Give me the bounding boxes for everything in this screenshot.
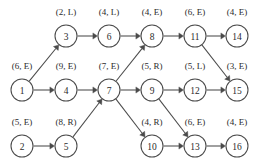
node-id-text: 1 — [20, 86, 25, 96]
arrowhead-icon — [93, 33, 98, 39]
edge-13-to-16 — [207, 143, 226, 149]
node-id-text: 10 — [147, 142, 157, 152]
graph-node-11[interactable]: 11(6, E) — [184, 7, 206, 47]
arrowhead-icon — [179, 33, 184, 39]
graph-node-8[interactable]: 8(4, E) — [141, 7, 163, 47]
graph-canvas: 1(6, E)2(5, E)3(2, L)4(9, E)5(8, R)6(4, … — [0, 0, 256, 166]
node-annotation-label: (9, E) — [56, 61, 77, 71]
edge-2-to-5 — [34, 143, 55, 149]
edge-1-to-4 — [34, 87, 55, 93]
node-id-text: 12 — [190, 86, 200, 96]
graph-node-13[interactable]: 13(6, E) — [184, 117, 206, 157]
edge-9-to-12 — [164, 87, 184, 93]
graph-node-16[interactable]: 16(4, E) — [226, 117, 248, 157]
node-annotation-label: (8, R) — [56, 117, 77, 127]
arrowhead-icon — [93, 87, 98, 93]
edge-11-to-14 — [207, 33, 226, 39]
arrowhead-icon — [97, 99, 102, 105]
edge-11-to-15 — [202, 45, 230, 81]
arrowhead-icon — [50, 87, 55, 93]
graph-node-9[interactable]: 9(5, R) — [141, 61, 163, 101]
node-layer: 1(6, E)2(5, E)3(2, L)4(9, E)5(8, R)6(4, … — [11, 7, 248, 157]
graph-node-6[interactable]: 6(4, L) — [98, 7, 120, 47]
node-annotation-label: (3, E) — [227, 61, 248, 71]
arrowhead-icon — [136, 87, 141, 93]
node-annotation-label: (6, E) — [185, 117, 206, 127]
edge-7-to-9 — [121, 87, 141, 93]
node-id-text: 13 — [190, 142, 200, 152]
node-id-text: 2 — [20, 142, 25, 152]
edge-4-to-7 — [78, 87, 98, 93]
arrowhead-icon — [53, 45, 58, 51]
node-id-text: 3 — [64, 32, 69, 42]
graph-figure: 1(6, E)2(5, E)3(2, L)4(9, E)5(8, R)6(4, … — [0, 0, 256, 166]
arrowhead-icon — [221, 143, 226, 149]
edge-6-to-8 — [121, 33, 141, 39]
arrowhead-icon — [221, 87, 226, 93]
graph-node-15[interactable]: 15(3, E) — [226, 61, 248, 101]
node-annotation-label: (4, L) — [99, 7, 120, 17]
graph-node-12[interactable]: 12(5, L) — [184, 61, 206, 101]
edge-3-to-6 — [78, 33, 98, 39]
node-annotation-label: (5, E) — [12, 117, 33, 127]
edge-9-to-13 — [159, 99, 188, 137]
node-id-text: 15 — [232, 86, 242, 96]
graph-node-2[interactable]: 2(5, E) — [11, 117, 33, 157]
edge-12-to-15 — [207, 87, 226, 93]
node-id-text: 11 — [190, 32, 199, 42]
arrowhead-icon — [183, 131, 188, 137]
arrowhead-icon — [136, 33, 141, 39]
graph-node-14[interactable]: 14(4, E) — [226, 7, 248, 47]
arrowhead-icon — [140, 131, 145, 137]
node-annotation-label: (4, E) — [227, 117, 248, 127]
arrowhead-icon — [179, 87, 184, 93]
node-id-text: 14 — [232, 32, 242, 42]
node-id-text: 9 — [150, 86, 155, 96]
node-annotation-label: (4, R) — [142, 117, 163, 127]
node-id-text: 6 — [107, 32, 112, 42]
node-id-text: 7 — [107, 86, 112, 96]
node-id-text: 8 — [150, 32, 155, 42]
node-annotation-label: (5, R) — [142, 61, 163, 71]
edge-5-to-7 — [73, 99, 102, 137]
node-annotation-label: (5, L) — [185, 61, 206, 71]
node-annotation-label: (4, E) — [227, 7, 248, 17]
node-annotation-label: (2, L) — [56, 7, 77, 17]
arrowhead-icon — [179, 143, 184, 149]
edge-10-to-13 — [164, 143, 184, 149]
graph-node-4[interactable]: 4(9, E) — [55, 61, 77, 101]
node-id-text: 4 — [64, 86, 69, 96]
node-annotation-label: (6, E) — [185, 7, 206, 17]
arrowhead-icon — [221, 33, 226, 39]
graph-node-3[interactable]: 3(2, L) — [55, 7, 77, 47]
node-annotation-label: (4, E) — [142, 7, 163, 17]
node-id-text: 16 — [232, 142, 242, 152]
graph-node-5[interactable]: 5(8, R) — [55, 117, 77, 157]
arrowhead-icon — [50, 143, 55, 149]
arrowhead-icon — [140, 45, 145, 51]
arrowhead-icon — [225, 75, 230, 81]
node-annotation-label: (7, E) — [99, 61, 120, 71]
node-id-text: 5 — [64, 142, 69, 152]
node-annotation-label: (6, E) — [12, 61, 33, 71]
edge-1-to-3 — [29, 45, 58, 81]
graph-node-10[interactable]: 10(4, R) — [141, 117, 163, 157]
edge-8-to-11 — [164, 33, 184, 39]
